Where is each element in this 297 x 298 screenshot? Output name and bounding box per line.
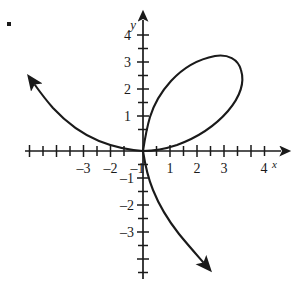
- y-axis-label: y: [128, 17, 136, 32]
- x-tick-label: 3: [221, 161, 228, 176]
- graph-figure: –3 –2 –1 1 2 3 4 4 3 2 1 –1 –2 –3 y x: [0, 0, 297, 298]
- y-tick-label: 1: [124, 109, 131, 124]
- y-tick-label: 2: [124, 82, 131, 97]
- curve-loop: [143, 56, 242, 151]
- coordinate-plane: –3 –2 –1 1 2 3 4 4 3 2 1 –1 –2 –3 y x: [0, 0, 297, 298]
- x-tick-label: 4: [261, 161, 268, 176]
- x-tick-label: 2: [194, 161, 201, 176]
- y-tick-label: –2: [119, 198, 134, 213]
- x-tick-label: –3: [76, 161, 91, 176]
- x-tick-label: –2: [103, 161, 118, 176]
- x-tick-labels: –3 –2 –1 1 2 3 4: [76, 161, 268, 176]
- y-tick-label: –3: [119, 225, 134, 240]
- y-tick-label: 3: [124, 55, 131, 70]
- x-axis-label: x: [271, 158, 277, 170]
- y-tick-label: –1: [119, 171, 134, 186]
- x-tick-label: 1: [167, 161, 174, 176]
- bullet-marker-icon: [7, 22, 11, 26]
- y-tick-labels: 4 3 2 1 –1 –2 –3: [119, 28, 134, 240]
